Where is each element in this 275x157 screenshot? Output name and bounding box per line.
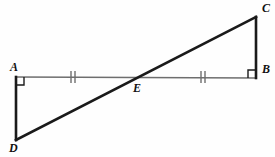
vertex-label-B: B (262, 63, 270, 75)
vertex-label-D: D (9, 142, 18, 154)
geometry-canvas (0, 0, 275, 157)
geometry-figure: A B C D E (0, 0, 275, 157)
vertex-label-A: A (10, 61, 18, 73)
vertex-label-E: E (133, 82, 141, 94)
vertex-label-C: C (262, 2, 270, 14)
tick-marks-EB (201, 71, 205, 83)
